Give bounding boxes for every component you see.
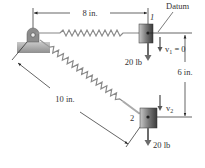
spring-collar-diagram: 8 in. 10 in. 1 Datum xyxy=(0,0,205,168)
velocity-arrow-1: v1 = 0 xyxy=(158,37,186,55)
velocity-arrow-2: v2 xyxy=(158,95,174,114)
pivot-pin-icon xyxy=(31,33,35,37)
spring-position-2 xyxy=(38,38,141,117)
weight-1-label: 20 lb xyxy=(125,57,142,67)
spring-position-1 xyxy=(36,30,140,36)
dimension-8in-label: 8 in. xyxy=(82,8,97,18)
dimension-8in: 8 in. xyxy=(33,8,148,28)
position-1-label: 1 xyxy=(150,12,154,22)
velocity-2-label: v2 xyxy=(166,103,173,114)
datum-line: Datum xyxy=(150,1,192,33)
collar-position-2: 2 xyxy=(130,108,157,128)
dimension-10in-label: 10 in. xyxy=(55,94,74,104)
weight-2-label: 20 lb xyxy=(153,140,170,150)
datum-label: Datum xyxy=(166,1,190,11)
weight-arrow-2: 20 lb xyxy=(145,128,171,150)
position-2-label: 2 xyxy=(130,113,134,123)
velocity-1-label: v1 = 0 xyxy=(165,44,186,55)
weight-arrow-1: 20 lb xyxy=(125,43,152,67)
collar-position-1: 1 xyxy=(139,12,154,43)
fixed-support xyxy=(17,28,50,53)
dimension-6in-label: 6 in. xyxy=(177,67,192,77)
